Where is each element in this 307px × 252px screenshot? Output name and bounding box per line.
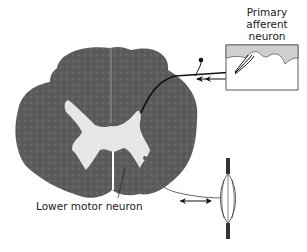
lower-motor-neuron-label: Lower motor neuron <box>36 200 143 212</box>
label-line-3: neuron <box>231 30 303 42</box>
muscle-icon <box>221 158 236 239</box>
label-line-1: Primary <box>231 6 303 18</box>
skin-receptor <box>226 45 298 90</box>
label-line-2: afferent <box>231 18 303 30</box>
primary-afferent-neuron-label: Primary afferent neuron <box>231 6 303 42</box>
cell-body-icon <box>199 58 204 63</box>
spinal-cord-cross-section <box>15 47 197 198</box>
